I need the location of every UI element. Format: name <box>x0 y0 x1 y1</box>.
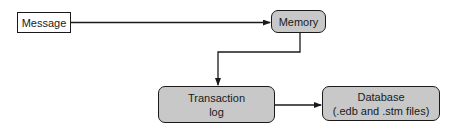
node-database-label-line1: Database <box>357 90 404 104</box>
node-database: Database (.edb and .stm files) <box>322 86 440 121</box>
node-memory-label: Memory <box>279 15 319 29</box>
node-database-label-line2: (.edb and .stm files) <box>333 104 430 118</box>
node-transaction-log: Transaction log <box>158 86 275 123</box>
node-transaction-log-label-line1: Transaction <box>188 91 245 105</box>
node-memory: Memory <box>271 10 326 33</box>
node-transaction-log-label-line2: log <box>209 105 224 119</box>
node-message-label: Message <box>22 16 67 30</box>
node-message: Message <box>17 12 71 33</box>
edge-memory-to-transaction-log <box>218 33 300 85</box>
